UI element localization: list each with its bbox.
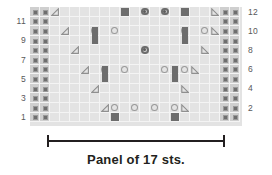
purl-dot-icon (233, 48, 238, 53)
chart-cell (120, 113, 130, 123)
chart-cell (140, 26, 150, 36)
chart-cell (160, 103, 170, 113)
chart-cell (130, 113, 140, 123)
chart-cell (170, 93, 180, 103)
row-number-label: 7 (8, 56, 26, 65)
chart-cell (120, 45, 130, 55)
purl-cell (30, 65, 40, 75)
purl-cell (30, 93, 40, 103)
purl-dot-icon (33, 39, 38, 44)
chart-cell (120, 84, 130, 94)
purl-dot-icon (233, 67, 238, 72)
purl-cell (230, 17, 240, 27)
chart-cell (60, 113, 70, 123)
chart-cell (170, 26, 180, 36)
chart-cell (100, 26, 110, 36)
purl-cell (30, 26, 40, 36)
chart-cell (200, 74, 210, 84)
dark-square-symbol (181, 8, 189, 16)
purl-cell (30, 74, 40, 84)
chart-cell (190, 103, 200, 113)
purl-dot-icon (43, 77, 48, 82)
chart-cell (130, 55, 140, 65)
chart-cell (80, 7, 90, 17)
right-triangle-decrease-symbol (191, 66, 199, 74)
chart-cell (180, 45, 190, 55)
chart-cell (150, 84, 160, 94)
chart-cell (80, 93, 90, 103)
chart-cell (70, 17, 80, 27)
chart-cell (70, 74, 80, 84)
chart-cell (90, 103, 100, 113)
chart-cell (150, 36, 160, 46)
chart-cell (60, 55, 70, 65)
chart-cell (70, 113, 80, 123)
chart-cell (200, 7, 210, 17)
row-number-label: 8 (248, 46, 268, 55)
chart-cell (50, 45, 60, 55)
chart-cell (50, 84, 60, 94)
purl-dot-icon (223, 87, 228, 92)
chart-cell (210, 113, 220, 123)
chart-cell (190, 7, 200, 17)
chart-cell (120, 55, 130, 65)
chart-cell (110, 93, 120, 103)
chart-cell (130, 26, 140, 36)
row-number-label: 4 (248, 84, 268, 93)
chart-cell (100, 84, 110, 94)
purl-cell (230, 26, 240, 36)
chart-cell (110, 65, 120, 75)
chart-cell (130, 36, 140, 46)
chart-cell (200, 113, 210, 123)
purl-dot-icon (43, 39, 48, 44)
purl-cell (30, 84, 40, 94)
purl-dot-icon (33, 67, 38, 72)
chart-cell (200, 17, 210, 27)
purl-cell (30, 17, 40, 27)
chart-cell (130, 93, 140, 103)
chart-cell (190, 17, 200, 27)
purl-cell (220, 45, 230, 55)
chart-cell (110, 7, 120, 17)
row-number-label: 9 (8, 36, 26, 45)
purl-cell (30, 55, 40, 65)
purl-cell (230, 7, 240, 17)
chart-cell (130, 65, 140, 75)
chart-cell (120, 103, 130, 113)
yarn-over-circle-symbol (181, 66, 188, 73)
purl-cell (230, 55, 240, 65)
chart-cell (90, 93, 100, 103)
right-triangle-decrease-symbol (181, 85, 189, 93)
chart-cell (210, 45, 220, 55)
chart-cell (160, 84, 170, 94)
purl-cell (220, 26, 230, 36)
chart-cell (210, 84, 220, 94)
chart-cell (180, 74, 190, 84)
chart-cell (60, 84, 70, 94)
chart-cell (90, 7, 100, 17)
purl-cell (220, 36, 230, 46)
chart-cell (120, 36, 130, 46)
dark-bar-symbol (172, 66, 179, 83)
chart-cell (100, 55, 110, 65)
chart-cell (70, 36, 80, 46)
chart-cell (50, 36, 60, 46)
purl-dot-icon (233, 58, 238, 63)
chart-cell (80, 55, 90, 65)
chart-cell (160, 113, 170, 123)
chart-cell (110, 17, 120, 27)
row-number-label: 10 (248, 27, 268, 36)
chart-cell (60, 36, 70, 46)
chart-cell (150, 113, 160, 123)
chart-cell (200, 84, 210, 94)
purl-cell (230, 65, 240, 75)
chart-cell (150, 74, 160, 84)
purl-cell (30, 113, 40, 123)
chart-cell (150, 45, 160, 55)
chart-cell (50, 113, 60, 123)
purl-dot-icon (43, 96, 48, 101)
chart-cell (80, 45, 90, 55)
stitch-chart (30, 7, 242, 126)
chart-cell (60, 17, 70, 27)
right-triangle-decrease-symbol (211, 27, 219, 35)
